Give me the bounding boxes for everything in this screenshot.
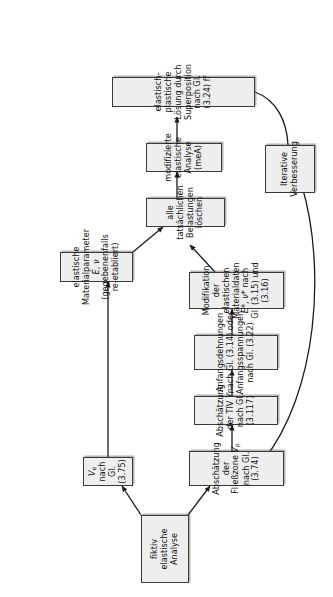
node-label: elastisch-plastische Lösung durch Superp…: [154, 64, 213, 120]
node-iterative-verbesserung[interactable]: Iterative Verbesserung: [265, 145, 315, 193]
edge-fiktiv-to-ve: [122, 486, 141, 515]
diagram-rotated-layer: fiktiv elastische Analyse Ve nach Gl. (3…: [0, 0, 333, 597]
node-line-2: (gegebenenfalls re-etabliert): [100, 234, 120, 300]
edge-fiktiv-to-fliesszone: [188, 486, 210, 515]
node-label: alle tatsächlichen Belastungen löschen: [166, 185, 205, 240]
node-modifikation-materialdaten[interactable]: Modifikation der elastischen Materialdat…: [189, 272, 284, 309]
node-line-1: Anfangsdehnungen nach Gl. (3.14) oder: [215, 312, 235, 394]
node-label: elastische Materialparameter E, ν (gegeb…: [72, 229, 121, 305]
node-label: modifizierte elastische Analyse (meA): [164, 133, 203, 182]
node-line-2: Anfangsspannungen nach Gl. (3.22): [235, 311, 255, 394]
node-line-2: E*, ν* nach Gl. (3.15) und (3.16): [240, 262, 270, 318]
node-belastungen-loeschen[interactable]: alle tatsächlichen Belastungen löschen: [146, 198, 225, 227]
node-fiktiv-elastische-analyse[interactable]: fiktiv elastische Analyse: [141, 515, 189, 583]
node-line-1: Modifikation der elastischen Materialdat…: [201, 262, 241, 319]
node-abschaetzung-tiv[interactable]: Abschätzung der TIV Yi nach Gl. (3.117): [194, 396, 278, 425]
node-label: Iterative Verbesserung: [280, 141, 300, 197]
node-ve-nach-gl-375[interactable]: Ve nach Gl. (3.75): [83, 457, 133, 486]
node-line-2: Verbesserung: [289, 141, 299, 197]
edge-materialparameter-to-belastungen: [133, 227, 163, 252]
node-line-1: Iterative: [279, 152, 289, 186]
diagram-canvas: fiktiv elastische Analyse Ve nach Gl. (3…: [0, 0, 333, 597]
edge-loesung-to-iterative: [255, 92, 288, 145]
node-anfangsdehnungen[interactable]: Anfangsdehnungen nach Gl. (3.14) oder An…: [194, 335, 278, 370]
node-label: Abschätzung der Fließzone Vp nach Gl. (3…: [212, 442, 262, 494]
node-label: fiktiv elastische Analyse: [150, 518, 180, 580]
node-label: Anfangsdehnungen nach Gl. (3.14) oder An…: [216, 311, 255, 394]
node-label: Modifikation der elastischen Materialdat…: [202, 262, 271, 319]
node-modifizierte-elastische-analyse[interactable]: modifizierte elastische Analyse (meA): [146, 143, 222, 172]
node-label: Ve nach Gl. (3.75): [88, 459, 128, 483]
node-elastisch-plastische-loesung[interactable]: elastisch-plastische Lösung durch Superp…: [112, 77, 255, 107]
node-elastische-materialparameter[interactable]: elastische Materialparameter E, ν (gegeb…: [60, 252, 133, 282]
node-abschaetzung-fliesszone[interactable]: Abschätzung der Fließzone Vp nach Gl. (3…: [189, 451, 284, 486]
node-line-1: elastische Materialparameter E, ν: [71, 229, 101, 305]
